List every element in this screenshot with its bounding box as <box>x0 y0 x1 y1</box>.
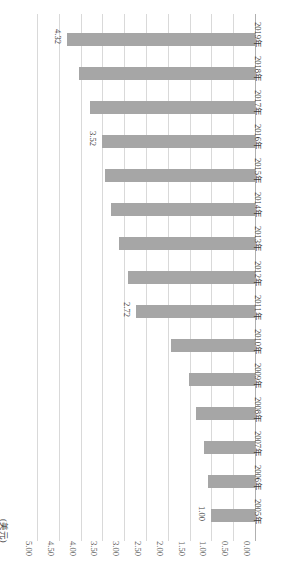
category-label: 2008年 <box>254 397 263 423</box>
bar <box>105 169 255 182</box>
gridline <box>124 14 125 541</box>
category-label: 2005年 <box>254 499 263 525</box>
category-label: 2009年 <box>254 363 263 389</box>
bar <box>204 441 255 454</box>
bar <box>196 407 255 420</box>
bar <box>111 203 255 216</box>
category-label: 2016年 <box>254 124 263 150</box>
category-label: 2006年 <box>254 465 263 491</box>
category-label: 2019年 <box>254 22 263 48</box>
axis-tick-label: 5.00 <box>25 541 34 556</box>
plot-area: 2005年2006年2007年2008年2009年2010年2011年2012年… <box>0 0 297 586</box>
axis-tick-label: 3.00 <box>112 541 121 556</box>
gridline <box>81 14 82 541</box>
bar <box>136 305 255 318</box>
bar <box>208 475 255 488</box>
bar <box>171 339 255 352</box>
data-label: 1.00 <box>198 506 207 521</box>
gridline <box>59 14 60 541</box>
category-label: 2012年 <box>254 261 263 287</box>
bar <box>102 135 255 148</box>
bar <box>79 67 255 80</box>
axis-tick-label: 3.50 <box>90 541 99 556</box>
gridline <box>37 14 38 541</box>
bar-chart: 2005年2006年2007年2008年2009年2010年2011年2012年… <box>0 0 297 586</box>
data-label: 4.32 <box>54 29 63 44</box>
axis-tick-label: 4.50 <box>47 541 56 556</box>
bar <box>90 101 255 114</box>
axis-tick-label: 0.50 <box>221 541 230 556</box>
bar <box>211 509 255 522</box>
bar <box>189 373 255 386</box>
axis-unit-label: (美元) <box>0 519 8 543</box>
data-label: 2.72 <box>123 302 132 317</box>
gridline <box>102 14 103 541</box>
category-label: 2013年 <box>254 226 263 252</box>
category-label: 2017年 <box>254 90 263 116</box>
axis-tick-label: 1.00 <box>199 541 208 556</box>
category-label: 2011年 <box>254 295 263 321</box>
axis-tick-label: 4.00 <box>69 541 78 556</box>
category-label: 2007年 <box>254 431 263 457</box>
bar <box>67 33 255 46</box>
category-label: 2014年 <box>254 192 263 218</box>
category-label: 2018年 <box>254 56 263 82</box>
bar <box>119 237 255 250</box>
axis-tick-label: 0.00 <box>243 541 252 556</box>
category-label: 2010年 <box>254 329 263 355</box>
bar <box>128 271 255 284</box>
category-label: 2015年 <box>254 158 263 184</box>
axis-tick-label: 1.50 <box>178 541 187 556</box>
axis-tick-label: 2.50 <box>134 541 143 556</box>
data-label: 3.52 <box>89 131 98 146</box>
axis-tick-label: 2.00 <box>156 541 165 556</box>
